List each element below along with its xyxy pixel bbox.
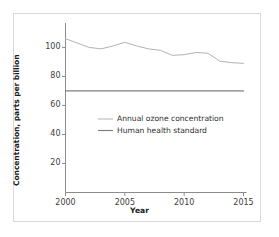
x-tick-label: 2015 — [229, 198, 259, 207]
axis-lines — [66, 23, 247, 193]
series-line-1 — [66, 39, 244, 64]
y-tick-label: 40 — [50, 129, 60, 138]
x-tick-label: 2000 — [51, 198, 81, 207]
x-tick-label: 2010 — [169, 198, 199, 207]
ozone-concentration-chart: Concentration, parts per billion Year 20… — [0, 0, 279, 237]
legend-label-2: Human health standard — [117, 126, 207, 135]
y-axis-title: Concentration, parts per billion — [12, 55, 21, 186]
y-tick-label: 60 — [50, 100, 60, 109]
x-tick-label: 2005 — [110, 198, 140, 207]
data-series-layer — [66, 39, 244, 91]
y-tick-label: 20 — [50, 158, 60, 167]
y-tick-label: 80 — [50, 71, 60, 80]
y-tick-label: 100 — [45, 42, 60, 51]
x-axis-title: Year — [0, 206, 279, 215]
legend-label-1: Annual ozone concentration — [117, 114, 224, 123]
legend-swatches — [98, 119, 113, 131]
